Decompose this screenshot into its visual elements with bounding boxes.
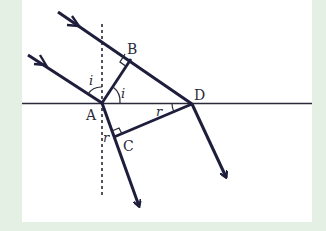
angle-label-i-right: i (121, 86, 125, 101)
label-D: D (194, 87, 205, 103)
label-B: B (127, 41, 137, 57)
angle-label-r-C: r (103, 130, 110, 145)
refracted-ray-D (192, 104, 226, 177)
label-A: A (85, 107, 97, 123)
refraction-diagram: A B C D i i r r (0, 0, 326, 231)
angle-arc-i-left (88, 87, 102, 94)
angle-label-i-left: i (89, 73, 93, 88)
label-C: C (123, 138, 134, 154)
wavefront-AB (102, 59, 131, 103)
refracted-ray-A (102, 103, 139, 206)
angle-label-r-D: r (156, 104, 163, 119)
wavefront-CD (114, 104, 192, 137)
angle-arc-r-D (172, 104, 174, 112)
angle-arc-i-right (113, 87, 120, 103)
